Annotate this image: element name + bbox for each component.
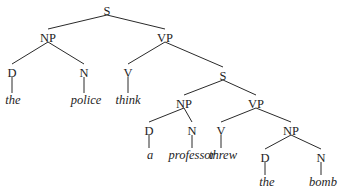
terminal-word: the <box>5 93 21 107</box>
node-label-v: V <box>216 124 225 138</box>
node-label-vp: VP <box>248 97 264 111</box>
node-label-np: NP <box>176 97 192 111</box>
tree-edge <box>12 42 48 64</box>
terminal-word: a <box>147 148 153 162</box>
terminal-word: bomb <box>309 175 337 189</box>
tree-edge <box>107 15 165 29</box>
tree-edge <box>128 42 165 64</box>
terminal-word: the <box>259 175 275 189</box>
node-label-s: S <box>104 4 111 18</box>
tree-edge <box>165 42 223 67</box>
node-label-d: D <box>144 124 153 138</box>
node-label-d: D <box>7 66 16 80</box>
tree-edge <box>48 15 107 29</box>
terminal-word: threw <box>209 148 238 162</box>
node-label-vp: VP <box>157 31 173 45</box>
terminal-word: police <box>70 93 102 107</box>
tree-edge <box>184 80 223 95</box>
node-label-n: N <box>187 124 196 138</box>
node-label-n: N <box>79 66 88 80</box>
node-label-np: NP <box>283 124 299 138</box>
tree-edge <box>223 80 256 95</box>
tree-words: thepolicethinkaprofessorthrewthebomb <box>5 93 337 189</box>
node-label-np: NP <box>40 31 56 45</box>
syntax-tree-diagram: SNPVPDNVSNPVPDNVNPDN thepolicethinkaprof… <box>0 0 339 195</box>
node-label-v: V <box>123 66 132 80</box>
tree-edge <box>48 42 84 64</box>
terminal-word: think <box>116 93 141 107</box>
tree-nodes: SNPVPDNVSNPVPDNVNPDN <box>7 4 325 165</box>
node-label-s: S <box>220 69 227 83</box>
node-label-n: N <box>316 151 325 165</box>
node-label-d: D <box>260 151 269 165</box>
